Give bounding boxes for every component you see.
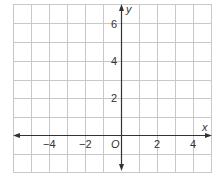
- x-axis-left-arrow-icon: [13, 133, 20, 138]
- x-axis-label: x: [202, 122, 208, 133]
- x-tick-neg2: −2: [79, 139, 92, 150]
- y-axis-down-arrow-icon: [119, 164, 124, 171]
- x-tick-neg4: −4: [43, 139, 56, 150]
- x-tick-4: 4: [190, 139, 196, 150]
- x-axis-right-arrow-icon: [205, 133, 212, 138]
- y-tick-4: 4: [111, 56, 117, 67]
- y-tick-2: 2: [111, 93, 117, 104]
- y-tick-6: 6: [111, 19, 117, 30]
- y-axis-up-arrow-icon: [119, 4, 124, 11]
- x-tick-2: 2: [154, 139, 160, 150]
- y-axis-label: y: [126, 4, 132, 15]
- origin-label: O: [111, 139, 120, 150]
